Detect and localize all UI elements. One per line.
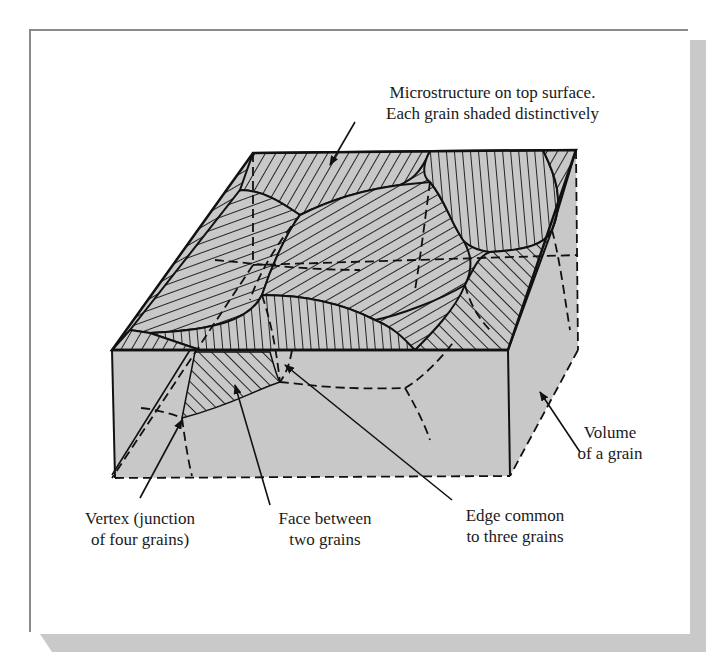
label-top-surface-line2: Each grain shaded distinctively xyxy=(355,103,630,124)
label-vertex-line2: of four grains) xyxy=(60,529,220,550)
label-vertex: Vertex (junction of four grains) xyxy=(60,508,220,550)
label-volume-line2: of a grain xyxy=(545,443,675,464)
label-top-surface: Microstructure on top surface. Each grai… xyxy=(355,82,630,124)
label-edge-line2: to three grains xyxy=(440,526,590,547)
top-surface-grains xyxy=(112,150,576,350)
label-face-line2: two grains xyxy=(255,529,395,550)
label-volume-line1: Volume xyxy=(545,422,675,443)
label-edge-line1: Edge common xyxy=(440,505,590,526)
label-volume: Volume of a grain xyxy=(545,422,675,464)
label-face: Face between two grains xyxy=(255,508,395,550)
label-vertex-line1: Vertex (junction xyxy=(60,508,220,529)
label-edge: Edge common to three grains xyxy=(440,505,590,547)
label-top-surface-line1: Microstructure on top surface. xyxy=(355,82,630,103)
label-face-line1: Face between xyxy=(255,508,395,529)
